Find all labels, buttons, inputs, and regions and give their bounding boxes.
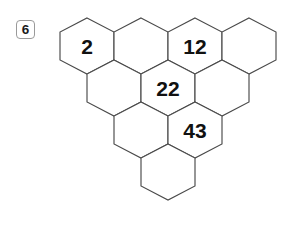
hexagon-value-r1c1: 22 — [156, 77, 179, 100]
hexagon-value-r2c1: 43 — [183, 119, 206, 142]
hexagon-value-r0c0: 2 — [81, 35, 93, 58]
hexagon-value-r0c2: 12 — [183, 35, 206, 58]
hex-puzzle-figure: 6 2122243 — [0, 0, 284, 232]
hexagon-grid: 2122243 — [0, 0, 284, 232]
hexagon-grid-svg: 2122243 — [0, 0, 284, 232]
